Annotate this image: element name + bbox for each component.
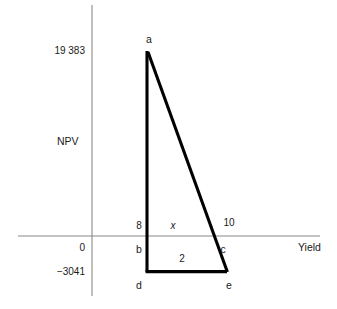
segment-label-lower-yield: 8 [136, 221, 142, 231]
vertex-label-a: a [146, 34, 152, 45]
x-axis-title: Yield [298, 242, 321, 253]
segment-label-upper-yield: 10 [223, 218, 234, 228]
y-axis-title: NPV [57, 136, 79, 147]
vertex-label-e: e [226, 280, 232, 291]
y-tick-label-zero: 0 [32, 243, 85, 253]
segment-label-yield-span: 2 [179, 254, 185, 264]
y-tick-label-lower: −3041 [32, 267, 85, 277]
segment-a-e [148, 52, 227, 272]
vertex-label-d: d [136, 280, 142, 291]
y-tick-label-upper: 19 383 [32, 46, 85, 56]
npv-profile-shape [146, 51, 228, 272]
npv-yield-figure: 19 383 NPV 0 −3041 Yield a b c d e 8 x 1… [0, 0, 337, 309]
segment-label-unknown-yield: x [171, 221, 176, 231]
vertex-label-c: c [220, 244, 225, 255]
vertex-label-b: b [136, 244, 142, 255]
